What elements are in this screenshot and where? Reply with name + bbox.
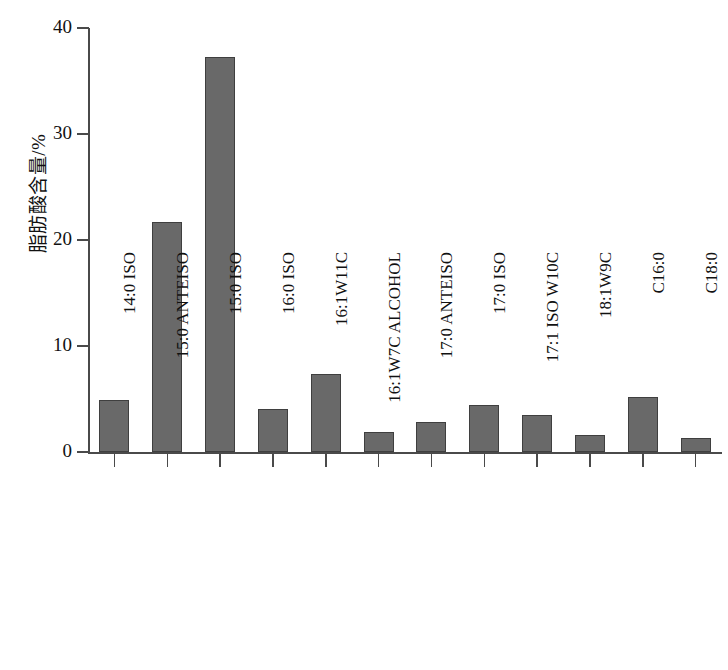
x-axis-tick-label: 17:0 ANTEISO — [438, 252, 455, 472]
x-axis-tick-mark — [272, 453, 274, 467]
y-axis-tick-label: 10 — [12, 335, 72, 354]
x-axis-tick-mark — [167, 453, 169, 467]
y-axis-tick-mark — [77, 27, 89, 29]
x-axis-tick-label: 15:0 ISO — [227, 252, 244, 472]
x-axis-tick-mark — [536, 453, 538, 467]
x-axis-tick-label: C16:0 — [650, 252, 667, 472]
y-axis-tick-mark — [77, 133, 89, 135]
x-axis-tick-mark — [695, 453, 697, 467]
fatty-acid-composition-bar-chart: 脂肪酸含量/% 010203040 14:0 ISO15:0 ANTEISO15… — [0, 0, 728, 670]
x-axis-tick-mark — [484, 453, 486, 467]
y-axis-tick-mark — [77, 239, 89, 241]
x-axis-tick-label: C18:0 — [703, 252, 720, 472]
y-axis-tick-mark — [77, 451, 89, 453]
y-axis-tick-mark — [77, 345, 89, 347]
x-axis-tick-label: 16:1W11C — [333, 252, 350, 472]
x-axis-tick-label: 16:0 ISO — [280, 252, 297, 472]
x-axis-tick-mark — [378, 453, 380, 467]
x-axis-tick-mark — [431, 453, 433, 467]
y-axis-tick-label: 20 — [12, 229, 72, 248]
x-axis-tick-label: 14:0 ISO — [121, 252, 138, 472]
y-axis-tick-label: 0 — [12, 441, 72, 460]
x-axis-tick-label: 16:1W7C ALCOHOL — [386, 252, 403, 472]
x-axis-tick-mark — [114, 453, 116, 467]
x-axis-tick-label: 17:0 ISO — [491, 252, 508, 472]
y-axis-tick-label: 40 — [12, 17, 72, 36]
x-axis-tick-label: 17:1 ISO W10C — [544, 252, 561, 472]
x-axis-tick-mark — [219, 453, 221, 467]
x-axis-tick-label: 18:1W9C — [597, 252, 614, 472]
x-axis-tick-mark — [589, 453, 591, 467]
y-axis-tick-label: 30 — [12, 123, 72, 142]
x-axis-tick-mark — [642, 453, 644, 467]
x-axis-tick-label: 15:0 ANTEISO — [174, 252, 191, 472]
x-axis-tick-mark — [325, 453, 327, 467]
